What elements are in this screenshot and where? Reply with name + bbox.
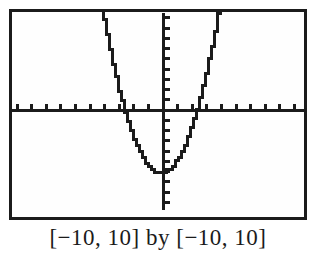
y-axis xyxy=(162,13,165,210)
x-axis-ticks xyxy=(16,104,296,109)
calculator-screen xyxy=(9,9,307,220)
x-axis xyxy=(12,109,304,112)
figure: [−10, 10] by [−10, 10] xyxy=(0,0,316,268)
plot-svg xyxy=(12,12,304,217)
window-caption: [−10, 10] by [−10, 10] xyxy=(0,225,316,251)
